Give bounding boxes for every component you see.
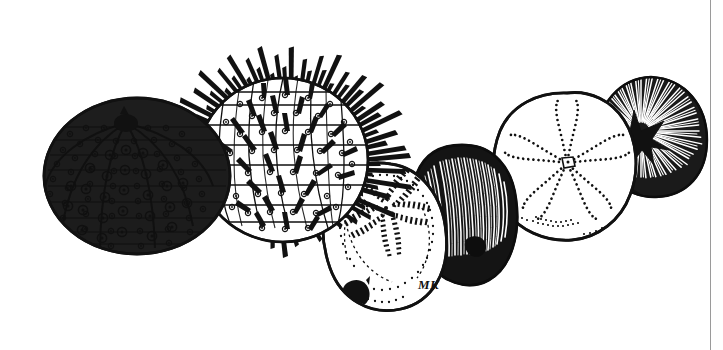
specimen-urchin-test <box>44 98 230 254</box>
right-border-rule <box>710 0 711 350</box>
illustration-plate: MK <box>0 0 723 350</box>
artist-signature: MK <box>418 277 439 293</box>
madreporite-icon <box>562 157 575 168</box>
echinoderm-artwork <box>0 0 723 350</box>
